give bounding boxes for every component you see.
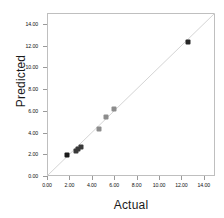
- x-tick-label: 10.00: [148, 182, 170, 188]
- x-tick-mark: [92, 176, 93, 180]
- y-tick-mark: [43, 67, 47, 68]
- y-axis-title: Predicted: [14, 33, 28, 129]
- y-tick-label: 0.00: [12, 173, 38, 179]
- data-point: [104, 115, 109, 120]
- x-tick-mark: [181, 176, 182, 180]
- x-tick-label: 6.00: [103, 182, 125, 188]
- y-tick-mark: [43, 133, 47, 134]
- x-tick-label: 14.00: [193, 182, 215, 188]
- x-tick-mark: [114, 176, 115, 180]
- x-tick-mark: [204, 176, 205, 180]
- scatter-chart: 0.002.004.006.008.0010.0012.0014.00 0.00…: [0, 0, 224, 218]
- x-tick-label: 2.00: [58, 182, 80, 188]
- y-tick-mark: [43, 89, 47, 90]
- x-axis-title: Actual: [47, 198, 215, 212]
- y-tick-label: 2.00: [12, 151, 38, 157]
- data-point: [186, 40, 191, 45]
- x-tick-label: 12.00: [170, 182, 192, 188]
- data-point: [112, 107, 117, 112]
- y-tick-mark: [43, 111, 47, 112]
- y-tick-label: 14.00: [12, 21, 38, 27]
- x-tick-label: 8.00: [126, 182, 148, 188]
- x-tick-label: 0.00: [36, 182, 58, 188]
- data-point: [78, 144, 83, 149]
- y-tick-mark: [43, 154, 47, 155]
- x-tick-mark: [47, 176, 48, 180]
- y-tick-label: 4.00: [12, 130, 38, 136]
- y-tick-mark: [43, 24, 47, 25]
- data-point: [96, 127, 101, 132]
- x-tick-mark: [69, 176, 70, 180]
- x-tick-mark: [159, 176, 160, 180]
- plot-area: [47, 13, 215, 176]
- x-tick-label: 4.00: [81, 182, 103, 188]
- data-point: [65, 153, 70, 158]
- x-tick-mark: [137, 176, 138, 180]
- y-tick-mark: [43, 46, 47, 47]
